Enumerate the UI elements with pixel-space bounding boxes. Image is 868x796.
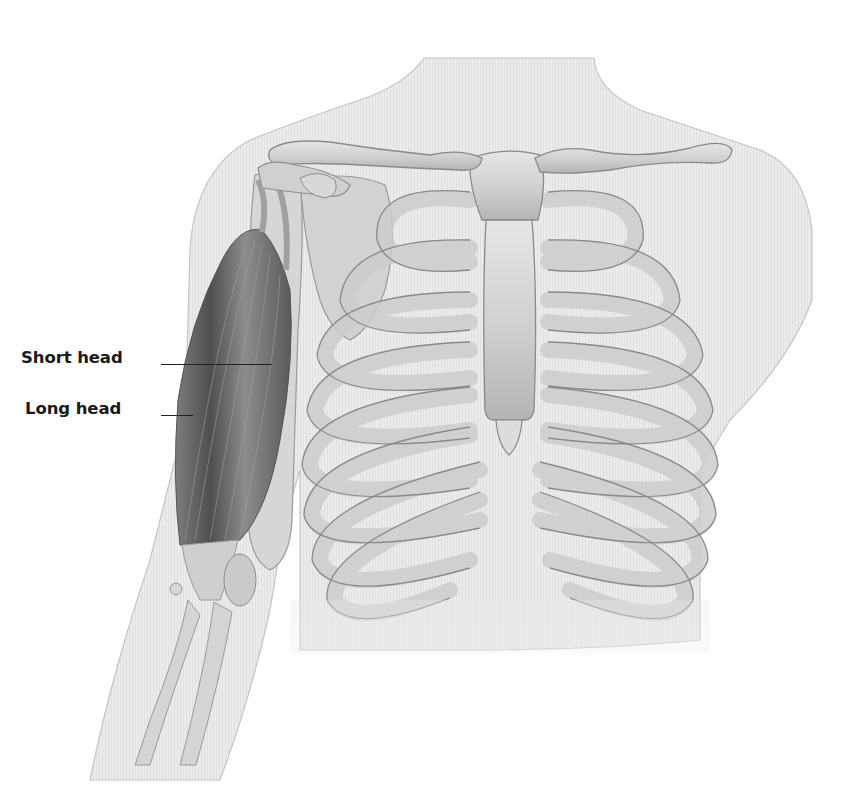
label-long-head: Long head xyxy=(25,399,121,418)
sternum-body xyxy=(484,220,536,420)
label-short-head: Short head xyxy=(21,348,123,367)
leader-line-short-head xyxy=(161,364,272,365)
bottom-fade xyxy=(290,600,710,660)
leader-line-long-head xyxy=(161,415,193,416)
anatomy-figure: Short head Long head xyxy=(0,0,868,796)
torso-and-arm-illustration xyxy=(0,0,868,796)
elbow-epicondyle xyxy=(224,554,256,606)
elbow-node xyxy=(170,583,182,595)
